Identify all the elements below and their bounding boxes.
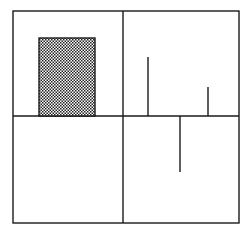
quadrant-diagram	[0, 0, 250, 235]
spike-group	[148, 57, 208, 172]
shaded-rectangle	[39, 38, 95, 116]
